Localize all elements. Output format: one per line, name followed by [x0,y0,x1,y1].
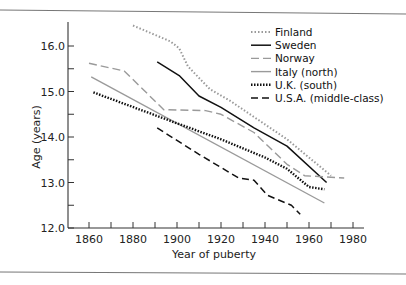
legend-label-norway: Norway [275,52,315,64]
y-tick-label: 13.0 [41,177,66,190]
legend-label-italy-north: Italy (north) [275,66,337,78]
legend-label-finland: Finland [275,26,313,38]
x-axis-title: Year of puberty [171,248,256,261]
legend: FinlandSwedenNorwayItaly (north)U.K. (so… [251,26,384,104]
x-tick-label: 1980 [339,233,367,246]
age-at-puberty-chart: 12.013.014.015.016.018601880190019201940… [0,0,406,285]
x-tick-label: 1880 [119,233,147,246]
y-tick-label: 12.0 [41,222,66,235]
legend-label-sweden: Sweden [275,39,317,51]
y-axis-title: Age (years) [30,105,43,169]
top-rule [0,10,406,14]
y-tick-label: 15.0 [41,86,66,99]
y-tick-label: 16.0 [41,40,66,53]
x-tick-label: 1860 [75,233,103,246]
x-tick-label: 1900 [163,233,191,246]
x-tick-label: 1940 [251,233,279,246]
x-tick-label: 1960 [295,233,323,246]
y-tick-label: 14.0 [41,131,66,144]
bottom-rule [0,272,406,274]
x-tick-label: 1920 [207,233,235,246]
legend-label-u-k-south: U.K. (south) [275,79,337,91]
legend-label-u-s-a-middle-class: U.S.A. (middle-class) [275,92,384,104]
